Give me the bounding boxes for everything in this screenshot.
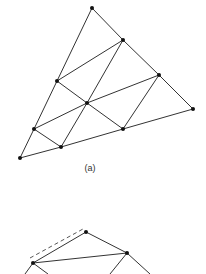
vertex-node [84, 230, 88, 234]
triangle-subdivision-figure [0, 0, 206, 274]
edge-line [87, 103, 123, 129]
vertex-node [85, 101, 89, 105]
edge-line [20, 129, 34, 158]
vertex-node [121, 38, 125, 42]
vertex-node [32, 127, 36, 131]
vertex-node [31, 261, 35, 265]
vertex-node [125, 251, 129, 255]
edge-line [86, 232, 127, 253]
edge-line [110, 253, 127, 274]
dashed-edge-line [30, 229, 83, 258]
edge-line [123, 75, 159, 129]
edge-line [87, 40, 123, 103]
edge-line [34, 81, 57, 129]
edge-line [87, 75, 159, 103]
edge-line [123, 40, 159, 75]
edge-line [25, 263, 33, 274]
edge-line [123, 109, 193, 129]
edge-line [92, 8, 123, 40]
edge-line [33, 263, 48, 274]
vertex-node [121, 127, 125, 131]
vertex-node [55, 79, 59, 83]
edge-line [57, 81, 87, 103]
edge-line [34, 129, 61, 147]
figure-caption-a: (a) [85, 163, 96, 173]
vertex-node [191, 107, 195, 111]
edge-line [127, 253, 150, 274]
vertex-node [59, 145, 63, 149]
edge-line [20, 147, 61, 158]
vertex-node [90, 6, 94, 10]
vertex-node [18, 156, 22, 160]
vertex-node [157, 73, 161, 77]
edge-line [159, 75, 193, 109]
